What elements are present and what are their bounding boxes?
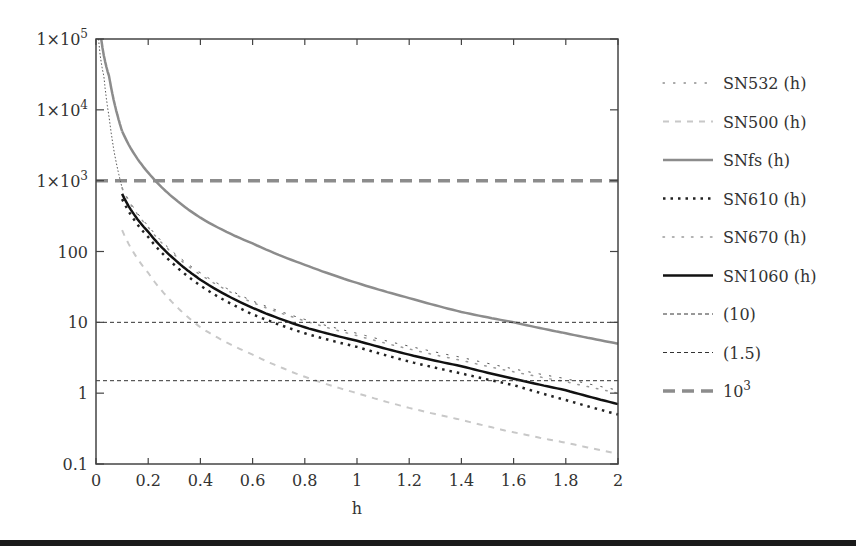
x-axis-label: h [352,499,362,518]
legend-label: (10) [723,305,756,324]
axes: 00.20.40.60.811.21.41.61.820.11101001×10… [36,27,623,518]
x-tick-label: 1.4 [449,471,474,490]
legend-label: 103 [723,379,751,401]
x-tick-label: 1.8 [553,471,578,490]
x-tick-label: 0.4 [188,471,213,490]
series-line-4 [122,188,618,393]
series-line-3 [122,199,618,414]
legend-label: SN500 (h) [723,113,806,132]
x-tick-label: 0.6 [240,471,265,490]
series-line-2 [122,131,618,344]
legend-label: (1.5) [723,344,761,363]
chart: 00.20.40.60.811.21.41.61.820.11101001×10… [0,0,856,540]
page-bottom-rule [0,540,856,546]
x-tick-label: 2 [613,471,623,490]
x-tick-label: 1.6 [501,471,526,490]
y-tick-label: 100 [57,243,88,262]
series-line-0 [122,188,618,391]
legend: SN532 (h)SN500 (h)SNfs (h)SN610 (h)SN670… [663,74,817,401]
x-tick-label: 0 [91,471,101,490]
plot-area [96,39,618,454]
y-tick-label: 1×104 [36,98,88,120]
legend-label: SNfs (h) [723,151,790,170]
series-continuation-0 [99,39,123,188]
x-tick-label: 0.8 [292,471,317,490]
legend-label: SN610 (h) [723,190,806,209]
series-line-1 [122,230,618,453]
x-tick-label: 1 [352,471,362,490]
legend-label: SN532 (h) [723,74,806,93]
y-tick-label: 10 [68,313,88,332]
y-tick-label: 1 [78,384,88,403]
x-tick-label: 0.2 [135,471,160,490]
legend-label: SN670 (h) [723,228,806,247]
y-tick-label: 1×103 [36,169,88,191]
y-tick-label: 1×105 [36,27,88,49]
legend-label: SN1060 (h) [723,267,817,286]
plot-frame [96,39,618,464]
y-tick-label: 0.1 [63,455,88,474]
series-line-5 [122,194,618,404]
x-tick-label: 1.2 [396,471,421,490]
